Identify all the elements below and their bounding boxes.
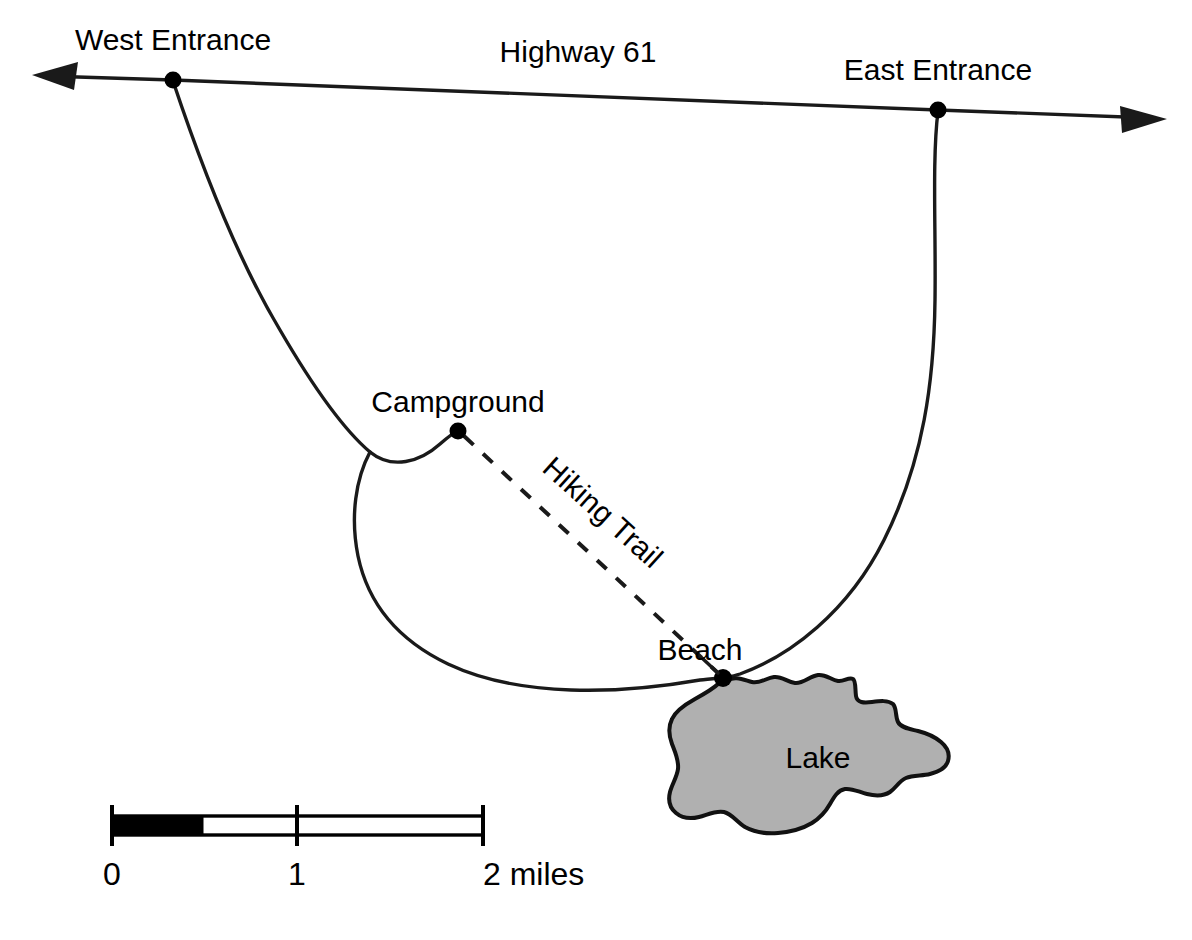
- park-map: West Entrance East Entrance Highway 61 C…: [0, 0, 1192, 940]
- node-dot-west-entrance[interactable]: [165, 72, 182, 89]
- label-beach: Beach: [657, 633, 742, 666]
- park-road-east[interactable]: [723, 111, 938, 678]
- node-dot-campground[interactable]: [450, 423, 467, 440]
- label-lake: Lake: [785, 741, 850, 774]
- highway-east-arrowhead: [1120, 106, 1167, 133]
- label-west-entrance: West Entrance: [75, 23, 271, 56]
- node-dot-east-entrance[interactable]: [930, 102, 947, 119]
- scale-label-2: 2 miles: [483, 856, 584, 892]
- label-highway-61: Highway 61: [500, 35, 657, 68]
- map-canvas: West Entrance East Entrance Highway 61 C…: [0, 0, 1192, 940]
- label-hiking-trail: Hiking Trail: [537, 450, 669, 574]
- scale-label-1: 1: [288, 856, 306, 892]
- scale-bar: 0 1 2 miles: [103, 805, 584, 892]
- label-campground: Campground: [371, 385, 544, 418]
- label-east-entrance: East Entrance: [844, 53, 1032, 86]
- scale-bar-filled-segment: [113, 817, 203, 834]
- highway-west-arrowhead: [32, 62, 78, 90]
- scale-label-0: 0: [103, 856, 121, 892]
